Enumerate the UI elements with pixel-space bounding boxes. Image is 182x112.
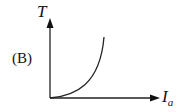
x-axis-arrow-icon	[150, 95, 160, 102]
torque-curve	[50, 37, 104, 98]
x-axis-label: Ia	[162, 87, 173, 108]
panel-label: (B)	[12, 50, 32, 67]
y-axis-label: T	[37, 2, 46, 22]
y-axis-arrow-icon	[47, 18, 54, 28]
x-axis-label-subscript: a	[168, 96, 174, 108]
diagram: T (B) Ia	[0, 0, 182, 112]
